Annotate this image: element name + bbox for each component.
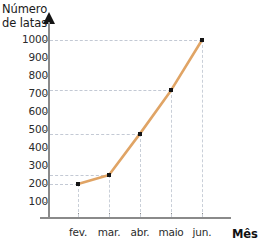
data-point-marker [169,88,173,92]
data-point-marker [107,173,111,177]
data-point-marker [200,38,204,42]
series-line [0,0,267,249]
line-chart: Númerode latas Mês 100200300400500600700… [0,0,267,249]
plot-area: 1002003004005006007008009001000 fev.mar.… [0,0,267,249]
data-point-marker [138,132,142,136]
data-point-marker [76,182,80,186]
